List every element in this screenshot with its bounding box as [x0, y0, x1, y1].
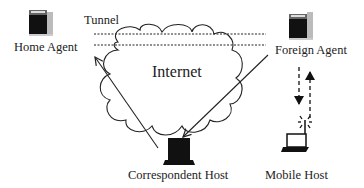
internet-label: Internet — [152, 63, 202, 81]
mobile-host-label: Mobile Host — [265, 168, 328, 183]
arrow-correspondent-to-home — [95, 57, 158, 148]
correspondent-host-label: Correspondent Host — [128, 168, 228, 183]
foreign-agent-server-icon — [289, 12, 313, 40]
correspondent-host-computer-icon — [163, 138, 195, 165]
diagram-canvas — [0, 0, 364, 188]
tunnel-label: Tunnel — [84, 13, 119, 28]
mobile-host-laptop-icon — [281, 116, 312, 152]
home-agent-server-icon — [29, 10, 53, 36]
home-agent-label: Home Agent — [14, 40, 78, 55]
foreign-agent-label: Foreign Agent — [275, 43, 347, 58]
